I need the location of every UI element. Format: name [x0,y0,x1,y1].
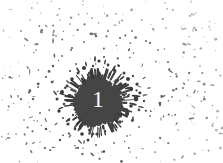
splatter-speck [83,23,85,25]
splatter-dot [167,61,169,63]
splatter-speck [205,82,206,83]
splatter-speck [145,2,146,3]
blob-rim-spike [95,70,96,78]
splatter-speck [182,51,185,54]
splatter-speck [134,36,137,39]
splatter-dot [177,129,179,131]
splatter-speck [159,63,160,64]
splatter-speck [186,95,188,97]
splatter-speck [154,109,155,110]
splatter-speck [219,147,222,150]
splatter-dot [61,55,63,57]
splatter-dot [74,128,77,131]
splatter-dot [204,91,206,93]
splatter-dot [107,64,110,67]
splatter-speck [73,35,74,36]
splatter-dot [107,30,109,32]
splatter-dot [17,95,19,97]
splatter-speck [182,56,183,57]
splatter-dot [69,23,71,25]
splatter-speck [63,31,64,32]
splatter-speck [9,76,11,78]
splatter-speck [214,38,217,41]
splatter-speck [67,2,68,3]
splatter-speck [29,19,31,21]
splatter-speck [27,127,29,129]
splatter-dot [118,120,121,123]
splatter-speck [77,147,79,149]
splatter-dot [80,132,84,136]
splatter-speck [191,13,193,15]
splatter-dot [69,70,71,72]
splatter-dot [37,86,39,88]
blob-number-label: 1 [92,87,104,112]
splatter-speck [10,95,11,96]
splatter-speck [2,77,4,79]
splatter-speck [94,141,95,142]
splatter-speck [130,9,133,12]
splatter-speck [3,30,5,32]
splatter-speck [38,69,40,71]
splatter-speck [13,103,14,104]
splatter-speck [164,2,166,4]
splatter-dot [71,47,73,49]
splatter-speck [98,22,100,24]
splatter-speck [190,112,191,113]
splatter-speck [128,25,129,26]
splatter-speck [203,36,204,37]
splatter-dot [63,103,66,106]
splatter-dot [95,144,97,146]
splatter-speck [121,19,123,21]
splatter-speck [122,120,124,122]
splatter-dot [75,147,77,149]
splatter-speck [40,31,43,34]
splatter-speck [215,69,217,71]
splatter-speck [181,27,182,28]
splatter-speck [175,2,176,3]
splatter-speck [117,49,118,50]
splatter-speck [64,87,66,89]
splatter-dot [62,117,64,119]
splatter-dot [87,139,90,142]
splatter-speck [70,16,73,19]
splatter-speck [24,45,25,46]
splatter-dot [126,135,128,137]
splatter-speck [61,39,63,41]
splatter-speck [215,129,218,132]
splatter-speck [129,57,131,59]
splatter-speck [193,152,196,155]
blob-rim-spike [102,75,103,78]
splatter-speck [92,33,94,35]
splatter-speck [184,24,185,25]
splatter-dot [55,35,57,37]
splatter-dot [92,65,94,67]
splatter-speck [51,81,54,84]
splatter-speck [104,13,105,14]
splatter-speck [3,29,4,30]
splatter-speck [203,83,206,86]
splatter-speck [172,9,174,11]
splatter-speck [82,4,83,5]
splatter-dot [182,87,184,89]
splatter-speck [203,98,206,101]
splatter-speck [129,42,131,44]
splatter-speck [159,137,161,139]
blob-rim-spike [105,74,106,78]
splatter-dot [56,98,59,101]
splatter-speck [81,153,83,155]
splatter-speck [29,106,31,108]
splatter-speck [57,33,58,34]
splatter-dot [75,63,77,65]
splatter-speck [9,37,10,38]
splatter-speck [4,69,5,70]
splatter-speck [189,96,190,97]
splatter-canvas: 1 [0,0,223,163]
splatter-speck [219,75,221,77]
splatter-dot [45,76,47,78]
splatter-speck [138,108,139,109]
splatter-speck [206,139,208,141]
splatter-speck [202,149,203,150]
splatter-speck [95,63,97,65]
splatter-speck [160,95,162,97]
splatter-dot [157,49,159,51]
